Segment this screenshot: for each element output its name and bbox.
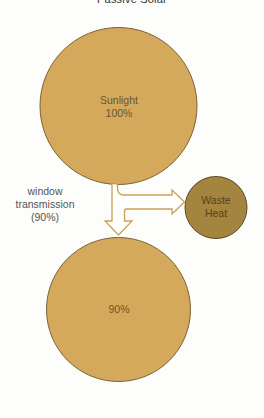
edge-label-line3: (90%) (4, 211, 86, 224)
sunlight-label: Sunlight 100% (78, 94, 160, 120)
window-transmission-label: window transmission (90%) (4, 185, 86, 224)
diagram-canvas: Passive Solar Sunlight 100% Waste Heat 9… (0, 0, 264, 418)
result-label: 90% (78, 303, 160, 316)
waste-heat-line2: Heat (186, 207, 246, 220)
sunlight-value: 100% (78, 107, 160, 120)
split-arrow-outline (105, 184, 185, 235)
flow-arrows (105, 184, 185, 235)
edge-label-line2: transmission (4, 198, 86, 211)
result-value: 90% (78, 303, 160, 316)
edge-label-line1: window (4, 185, 86, 198)
waste-heat-label: Waste Heat (186, 194, 246, 220)
waste-heat-line1: Waste (186, 194, 246, 207)
sunlight-name: Sunlight (78, 94, 160, 107)
